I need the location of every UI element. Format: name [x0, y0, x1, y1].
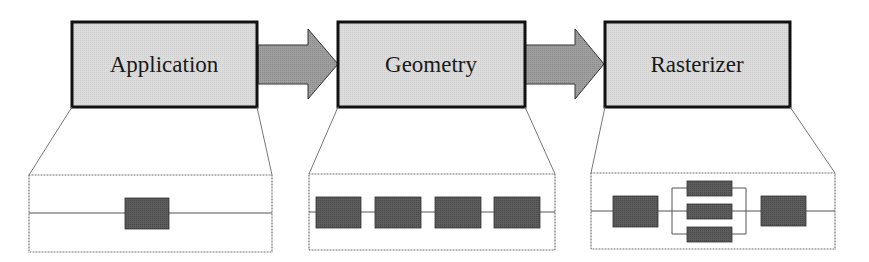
- process-block: [125, 198, 169, 229]
- parallel-block: [687, 204, 732, 219]
- stage-label-application: Application: [110, 52, 219, 77]
- pipeline-diagram: Application Geometry Rasterizer: [0, 0, 869, 262]
- detail-geometry: [309, 174, 555, 250]
- process-block: [613, 196, 658, 227]
- process-block: [435, 197, 481, 228]
- stage-geometry: Geometry: [338, 22, 525, 107]
- expansion-lines: [29, 107, 835, 175]
- arrow-geometry-to-rasterizer: [525, 29, 604, 99]
- process-block: [494, 197, 540, 228]
- stage-application: Application: [72, 22, 257, 107]
- detail-rasterizer: [591, 173, 835, 249]
- parallel-block: [687, 181, 732, 196]
- detail-application: [29, 175, 272, 252]
- stage-label-rasterizer: Rasterizer: [650, 52, 744, 77]
- process-block: [761, 196, 806, 226]
- arrow-application-to-geometry: [258, 29, 338, 99]
- process-block: [316, 197, 361, 228]
- stage-rasterizer: Rasterizer: [605, 22, 790, 107]
- stage-label-geometry: Geometry: [385, 52, 477, 77]
- process-block: [375, 197, 421, 228]
- parallel-block: [687, 227, 732, 242]
